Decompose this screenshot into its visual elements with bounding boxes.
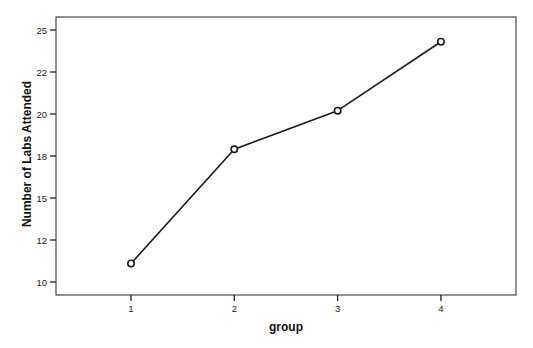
y-tick-label: 10 (36, 277, 47, 288)
y-axis-title: Number of Labs Attended (20, 81, 34, 227)
x-tick-label: 2 (232, 303, 237, 314)
y-tick-label: 15 (36, 193, 47, 204)
plot-frame (56, 17, 516, 295)
x-tick-label: 4 (438, 303, 443, 314)
y-tick-label: 20 (36, 109, 47, 120)
x-tick-label: 1 (128, 303, 133, 314)
data-point-marker (231, 146, 237, 152)
y-tick-label: 22 (36, 67, 47, 78)
y-axis: 10121518202225 (36, 25, 56, 288)
y-tick-label: 18 (36, 151, 47, 162)
x-tick-label: 3 (335, 303, 340, 314)
y-tick-label: 12 (36, 235, 47, 246)
data-point-marker (128, 260, 134, 266)
data-point-marker (438, 39, 444, 45)
data-point-marker (334, 107, 340, 113)
y-tick-label: 25 (36, 25, 47, 36)
line-chart: 10121518202225 1234 group Number of Labs… (0, 0, 533, 348)
chart-canvas: 10121518202225 1234 group Number of Labs… (0, 0, 533, 348)
x-axis-title: group (269, 320, 303, 334)
x-axis: 1234 (128, 295, 443, 314)
